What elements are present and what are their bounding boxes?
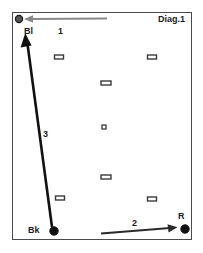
pin-marker (101, 175, 111, 179)
pin-marker (101, 81, 111, 85)
marker-bl (15, 15, 22, 22)
arrow-label-1: 1 (58, 27, 63, 36)
marker-bk (50, 227, 58, 235)
marker-r (181, 225, 189, 233)
pin-group (55, 55, 157, 201)
pin-marker (148, 197, 157, 201)
arrow-1 (24, 15, 107, 23)
arrow-label-2: 2 (132, 219, 137, 228)
diagram-graphics-layer (0, 0, 203, 253)
marker-label-r: R (178, 212, 185, 221)
marker-label-bl: Bl (24, 27, 33, 36)
diagram-canvas: Diag.1 Bl Bk R 1 2 3 (0, 0, 203, 253)
arrow-label-3: 3 (43, 130, 48, 139)
marker-label-bk: Bk (28, 226, 40, 235)
pin-marker (102, 125, 106, 129)
pin-marker (148, 55, 157, 59)
arrow-2 (101, 224, 178, 233)
pin-marker (56, 196, 65, 200)
diagram-title: Diag.1 (158, 15, 185, 24)
pin-marker (55, 55, 64, 59)
